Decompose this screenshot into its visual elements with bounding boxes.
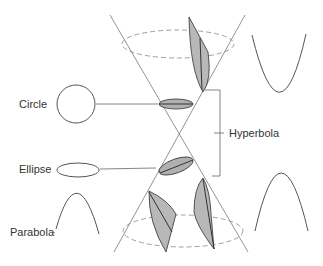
hyperbola-branch-lower — [255, 173, 308, 231]
parabola-label: Parabola — [10, 226, 54, 238]
top-base-ellipse — [122, 30, 234, 58]
upper-hyperbola-section — [189, 17, 209, 92]
circle-label: Circle — [19, 98, 47, 110]
ellipse-shape — [57, 163, 99, 177]
conic-sections-diagram: Circle Ellipse Parabola Hyperbola — [0, 0, 323, 266]
hyperbola-label: Hyperbola — [229, 127, 279, 139]
ellipse-section — [157, 153, 196, 178]
parabola-shape — [56, 193, 99, 234]
hyperbola-branch-upper — [252, 34, 306, 92]
bottom-base-ellipse — [123, 215, 243, 247]
parabola-section — [149, 191, 176, 252]
circle-shape — [57, 85, 95, 123]
ellipse-label: Ellipse — [19, 163, 51, 175]
